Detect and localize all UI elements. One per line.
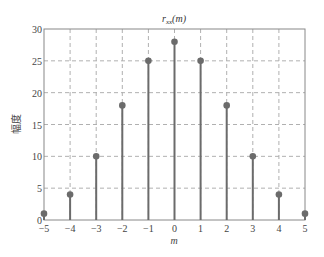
- autocorrelation-stem-chart: −5−4−3−2−1012345 051015202530 rxx(m) m 幅…: [0, 0, 324, 257]
- x-tick-label: −3: [91, 223, 102, 234]
- y-tick-label: 5: [37, 183, 42, 194]
- stem-marker: [250, 153, 257, 160]
- x-tick-label: −1: [143, 223, 154, 234]
- x-tick-label: 4: [276, 223, 281, 234]
- x-tick-label: −2: [117, 223, 128, 234]
- stem-marker: [302, 210, 309, 217]
- stem-marker: [93, 153, 100, 160]
- x-tick-label: 2: [224, 223, 229, 234]
- y-tick-label: 30: [32, 24, 42, 35]
- stem-marker: [145, 58, 152, 65]
- x-tick-label: 0: [172, 223, 177, 234]
- y-axis-label: 幅度: [10, 114, 22, 134]
- y-tick-label: 10: [32, 151, 42, 162]
- x-tick-label: −4: [65, 223, 76, 234]
- y-tick-label: 0: [37, 215, 42, 226]
- x-tick-labels: −5−4−3−2−1012345: [39, 223, 308, 234]
- stem-marker: [119, 102, 126, 109]
- y-tick-label: 25: [32, 56, 42, 67]
- stem-marker: [67, 191, 74, 198]
- x-tick-label: 3: [250, 223, 255, 234]
- x-tick-label: 5: [303, 223, 308, 234]
- stem-marker: [223, 102, 230, 109]
- chart-title: rxx(m): [162, 13, 187, 26]
- stem-marker: [276, 191, 283, 198]
- stem-marker: [171, 38, 178, 45]
- stem-series: [41, 38, 309, 220]
- stem-marker: [197, 58, 204, 65]
- y-tick-labels: 051015202530: [32, 24, 42, 226]
- x-tick-label: 1: [198, 223, 203, 234]
- y-tick-label: 20: [32, 88, 42, 99]
- y-tick-label: 15: [32, 120, 42, 131]
- x-axis-label: m: [170, 235, 177, 246]
